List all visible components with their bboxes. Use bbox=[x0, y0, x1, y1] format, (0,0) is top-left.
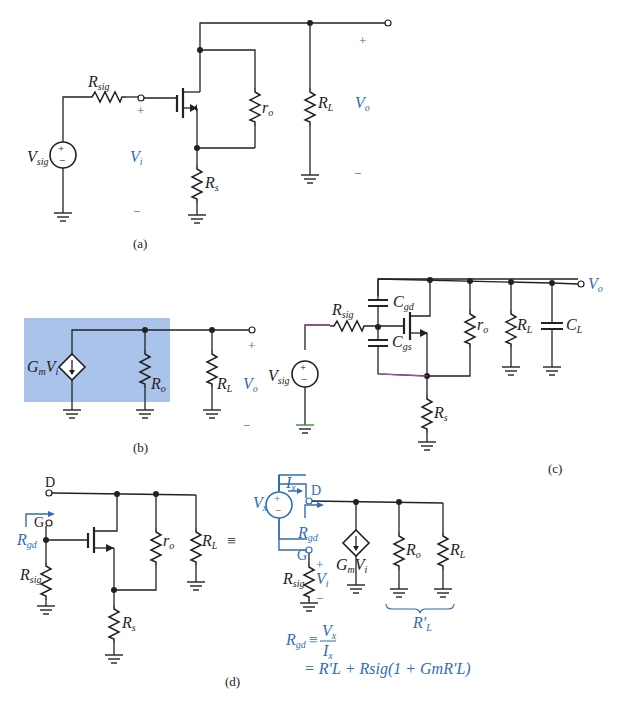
label-rgd-d: Rgd bbox=[16, 531, 38, 550]
circuit-figure: + − Rsig Vsig ro Rs RL Vi Vo + − + − (a) bbox=[0, 0, 628, 707]
svg-text:−: − bbox=[59, 154, 65, 166]
plus-sign: + bbox=[137, 103, 144, 118]
label-vx: Vx bbox=[253, 494, 268, 513]
label-rs-a: Rs bbox=[204, 174, 219, 193]
plus-sign: + bbox=[248, 338, 255, 353]
caption-d: (d) bbox=[225, 674, 240, 689]
label-rsig-d: Rsig bbox=[19, 566, 41, 585]
equation-lhs: Rgd≡ bbox=[285, 631, 318, 650]
label-ix: Ix bbox=[285, 474, 296, 493]
label-vi-a: Vi bbox=[130, 148, 143, 167]
panel-d: D G Rgd Rsig ro Rs RL ≡ + − bbox=[16, 474, 471, 689]
label-vo-c: Vo bbox=[588, 275, 603, 294]
panel-a: + − Rsig Vsig ro Rs RL Vi Vo + − + − (a) bbox=[27, 20, 391, 251]
label-rl-c: RL bbox=[516, 316, 533, 335]
plus-sign: + bbox=[359, 33, 366, 48]
label-vo-a: Vo bbox=[355, 94, 370, 113]
label-rsig-eq: Rsig bbox=[282, 570, 304, 589]
equation-result: = R′L + Rsig(1 + GmR′L) bbox=[304, 660, 471, 678]
caption-b: (b) bbox=[133, 440, 148, 455]
label-ro-a: ro bbox=[262, 99, 273, 118]
label-vo-b: Vo bbox=[243, 375, 258, 394]
label-vsig-c: Vsig bbox=[268, 367, 289, 386]
equation-numerator: Vx bbox=[322, 622, 337, 641]
brace bbox=[386, 604, 454, 613]
minus-sign: − bbox=[354, 166, 361, 181]
label-rl-eq: RL bbox=[449, 541, 466, 560]
label-cgd-c: Cgd bbox=[393, 293, 415, 312]
label-rlprime: R′L bbox=[412, 614, 432, 633]
caption-a: (a) bbox=[133, 236, 147, 251]
svg-text:+: + bbox=[58, 142, 64, 154]
label-vi-eq: Vi bbox=[316, 570, 329, 589]
label-Ro-eq: Ro bbox=[405, 541, 421, 560]
minus-sign: − bbox=[243, 418, 250, 433]
label-ro-d: ro bbox=[163, 532, 174, 551]
plus-sign: + bbox=[316, 557, 323, 572]
label-rs-c: Rs bbox=[433, 404, 448, 423]
minus-sign: − bbox=[133, 204, 140, 219]
panel-b: GmVi Ro RL Vo + − (b) bbox=[24, 318, 258, 455]
caption-c: (c) bbox=[548, 461, 562, 476]
label-rs-d: Rs bbox=[121, 614, 136, 633]
equivalence-sign: ≡ bbox=[227, 532, 236, 549]
label-d-terminal-eq: D bbox=[311, 483, 321, 498]
label-vsig-a: Vsig bbox=[27, 148, 48, 167]
label-rsig-c: Rsig bbox=[331, 301, 353, 320]
label-cgs-c: Cgs bbox=[392, 333, 412, 352]
label-rsig-a: Rsig bbox=[87, 73, 109, 92]
svg-text:+: + bbox=[274, 492, 280, 504]
label-rgd-eq: Rgd bbox=[297, 524, 319, 543]
svg-text:+: + bbox=[300, 361, 306, 373]
label-g-terminal: G bbox=[34, 515, 44, 530]
label-d-terminal: D bbox=[45, 475, 55, 490]
svg-text:−: − bbox=[275, 504, 281, 516]
label-rl-d: RL bbox=[201, 532, 218, 551]
svg-text:−: − bbox=[301, 373, 307, 385]
label-rl-b: RL bbox=[216, 375, 233, 394]
label-g-terminal-eq: G bbox=[297, 548, 307, 563]
label-gmvi-eq: GmVi bbox=[336, 556, 368, 575]
label-cl-c: CL bbox=[566, 316, 583, 335]
label-ro-c: ro bbox=[477, 316, 488, 335]
label-rl-a: RL bbox=[317, 94, 334, 113]
equation-denominator: Ix bbox=[322, 642, 333, 661]
minus-sign: − bbox=[316, 591, 323, 606]
panel-c: + − Rsig Vsig Cgd Cgs ro RL CL Rs Vo (c) bbox=[268, 275, 603, 476]
